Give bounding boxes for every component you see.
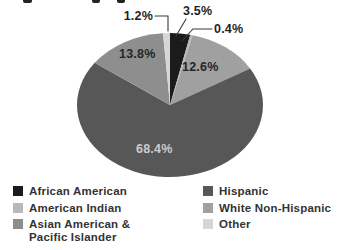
legend-item-white-non-hispanic: White Non-Hispanic: [203, 202, 338, 215]
legend-item-asian-american: Asian American & Pacific Islander: [13, 218, 163, 243]
slice-label-american-indian: 0.4%: [214, 22, 243, 36]
legend-item-hispanic: Hispanic: [203, 185, 338, 198]
pie-chart-figure: 1.2% 3.5% 0.4% 13.8% 12.6% 68.4% African…: [0, 0, 341, 250]
legend-label: White Non-Hispanic: [219, 202, 331, 215]
legend-item-american-indian: American Indian: [13, 202, 163, 215]
legend-swatch-asian-american: [13, 219, 23, 229]
legend-label: African American: [29, 185, 127, 198]
leader-line-african-american: [176, 19, 186, 36]
legend-swatch-african-american: [13, 186, 23, 196]
legend-swatch-hispanic: [203, 186, 213, 196]
legend-label: Other: [219, 218, 251, 231]
legend-swatch-american-indian: [13, 203, 23, 213]
leader-line-other: [155, 16, 168, 31]
legend-item-african-american: African American: [13, 185, 163, 198]
slice-label-african-american: 3.5%: [183, 4, 212, 18]
slice-label-other: 1.2%: [117, 9, 153, 23]
legend-swatch-white-non-hispanic: [203, 203, 213, 213]
legend-item-other: Other: [203, 218, 338, 231]
legend-label: Hispanic: [219, 185, 269, 198]
legend-label: Asian American & Pacific Islander: [29, 218, 139, 243]
legend-swatch-other: [203, 219, 213, 229]
slice-label-hispanic: 68.4%: [136, 142, 172, 156]
slice-label-white-non-hispanic: 12.6%: [182, 60, 218, 74]
slice-label-asian-american: 13.8%: [119, 47, 155, 61]
legend-label: American Indian: [29, 202, 121, 215]
legend-column-2: Hispanic White Non-Hispanic Other: [203, 185, 338, 231]
legend-column-1: African American American Indian Asian A…: [13, 185, 163, 243]
